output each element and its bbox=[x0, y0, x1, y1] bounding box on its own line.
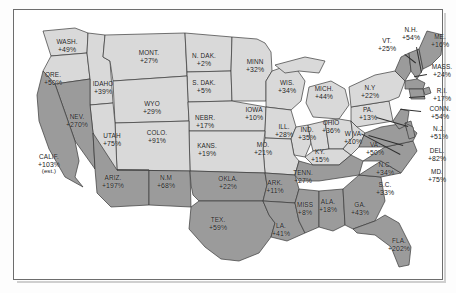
state-name: MASS. bbox=[432, 64, 452, 71]
state-name: NEBR. bbox=[195, 115, 215, 122]
state-value: +202% bbox=[388, 245, 410, 252]
state-name: CALIF. bbox=[38, 154, 60, 161]
state-label-me: ME.+16% bbox=[431, 34, 449, 48]
state-value: +54% bbox=[429, 113, 450, 120]
state-name: UTAH bbox=[103, 133, 121, 140]
state-value: +51% bbox=[430, 133, 448, 140]
state-label-s-dak: S. DAK.+5% bbox=[192, 80, 215, 94]
state-value: +33% bbox=[376, 189, 394, 196]
state-name: ORE. bbox=[44, 72, 62, 79]
state-name: WIS. bbox=[278, 80, 296, 87]
state-value: +27% bbox=[293, 177, 313, 184]
state-label-utah: UTAH+75% bbox=[103, 133, 121, 147]
state-name: N.H. bbox=[402, 27, 420, 34]
state-label-iowa: IOWA+10% bbox=[245, 107, 263, 121]
state-value: +34% bbox=[278, 87, 296, 94]
state-label-ore: ORE.+50% bbox=[44, 72, 62, 86]
state-value: +13% bbox=[359, 114, 377, 121]
state-value: +18% bbox=[319, 206, 337, 213]
state-value: +35% bbox=[298, 134, 316, 141]
state-value: +11% bbox=[266, 187, 284, 194]
state-name: DEL. bbox=[428, 148, 446, 155]
state-name: IND. bbox=[298, 127, 316, 134]
state-name: MINN bbox=[246, 59, 264, 66]
state-name: ARK. bbox=[266, 180, 284, 187]
state-value: +17% bbox=[433, 95, 451, 102]
state-label-mass: MASS.+24% bbox=[432, 64, 452, 78]
state-label-calif: CALIF.+103%(est.) bbox=[38, 154, 60, 174]
state-label-minn: MINN+32% bbox=[246, 59, 264, 73]
state-value: +24% bbox=[432, 71, 452, 78]
state-label-ariz: ARIZ.+197% bbox=[102, 175, 124, 189]
state-label-n-h: N.H.+54% bbox=[402, 27, 420, 41]
state-label-wyo: WYO+29% bbox=[143, 101, 161, 115]
state-label-ala: ALA.+18% bbox=[319, 199, 337, 213]
state-name: ARIZ. bbox=[102, 175, 124, 182]
state-value: +21% bbox=[254, 149, 272, 156]
state-value: +75% bbox=[103, 140, 121, 147]
state-value: +82% bbox=[428, 155, 446, 162]
state-value: +49% bbox=[56, 46, 77, 53]
state-label-w-va: W VA+10% bbox=[344, 131, 362, 145]
state-value: +22% bbox=[361, 92, 379, 99]
state-label-del: DEL.+82% bbox=[428, 148, 446, 162]
state-name: N.C. bbox=[376, 162, 394, 169]
state-label-ohio: OHIO+36% bbox=[322, 120, 340, 134]
state-name: W VA bbox=[344, 131, 362, 138]
state-name: IDAHO bbox=[93, 81, 114, 88]
figure-root: WASH.+49%ORE.+50%IDAHO+39%MONT.+27%N. DA… bbox=[0, 0, 456, 293]
state-name: ALA. bbox=[319, 199, 337, 206]
state-label-ark: ARK.+11% bbox=[266, 180, 284, 194]
state-label-mo: MO.+21% bbox=[254, 142, 272, 156]
state-label-la: LA.+41% bbox=[272, 223, 290, 237]
state-value: +16% bbox=[431, 41, 449, 48]
state-label-idaho: IDAHO+39% bbox=[93, 81, 114, 95]
state-label-wash: WASH.+49% bbox=[56, 39, 77, 53]
state-value: +43% bbox=[351, 209, 369, 216]
state-name: MISS bbox=[297, 202, 313, 209]
state-name: MONT. bbox=[139, 50, 159, 57]
state-name: WASH. bbox=[56, 39, 77, 46]
state-value: +28% bbox=[275, 131, 293, 138]
state-label-wis: WIS.+34% bbox=[278, 80, 296, 94]
state-value: +32% bbox=[246, 66, 264, 73]
state-name: TEX. bbox=[209, 217, 227, 224]
state-value: +68% bbox=[157, 182, 175, 189]
state-name: OKLA. bbox=[218, 176, 237, 183]
state-label-n-y: N.Y+22% bbox=[361, 85, 379, 99]
state-value: +22% bbox=[218, 183, 237, 190]
state-value: +41% bbox=[272, 230, 290, 237]
state-label-md: MD.+75% bbox=[428, 169, 446, 183]
state-value: +34% bbox=[376, 169, 394, 176]
state-label-nev: NEV.+270% bbox=[66, 114, 88, 128]
state-name: OHIO bbox=[322, 120, 340, 127]
state-value: +10% bbox=[344, 138, 362, 145]
state-label-ga: GA.+43% bbox=[351, 202, 369, 216]
state-name: KANS. bbox=[197, 143, 217, 150]
state-name: S. DAK. bbox=[192, 80, 215, 87]
state-value: +17% bbox=[195, 122, 215, 129]
state-label-tex: TEX.+59% bbox=[209, 217, 227, 231]
state-value: +91% bbox=[147, 137, 167, 144]
state-label-mont: MONT.+27% bbox=[139, 50, 159, 64]
state-value: +54% bbox=[402, 34, 420, 41]
state-label-r-i: R.I.+17% bbox=[433, 88, 451, 102]
state-label-colo: COLO.+91% bbox=[147, 130, 167, 144]
state-label-mich: MICH.+44% bbox=[315, 86, 334, 100]
state-label-tenn: TENN.+27% bbox=[293, 170, 313, 184]
state-label-okla: OKLA.+22% bbox=[218, 176, 237, 190]
state-value: +25% bbox=[378, 45, 396, 52]
state-name: S.C. bbox=[376, 182, 394, 189]
state-name: IOWA bbox=[245, 107, 263, 114]
state-label-ill: ILL.+28% bbox=[275, 124, 293, 138]
state-label-nebr: NEBR.+17% bbox=[195, 115, 215, 129]
state-value: +29% bbox=[143, 108, 161, 115]
state-name: WYO bbox=[143, 101, 161, 108]
state-label-n-j: N.J.+51% bbox=[430, 126, 448, 140]
state-value: +197% bbox=[102, 182, 124, 189]
state-label-n-dak: N. DAK.+2% bbox=[192, 53, 216, 67]
state-name: TENN. bbox=[293, 170, 313, 177]
state-value: +50% bbox=[44, 79, 62, 86]
state-label-miss: MISS+8% bbox=[297, 202, 313, 216]
state-label-s-c: S.C.+33% bbox=[376, 182, 394, 196]
